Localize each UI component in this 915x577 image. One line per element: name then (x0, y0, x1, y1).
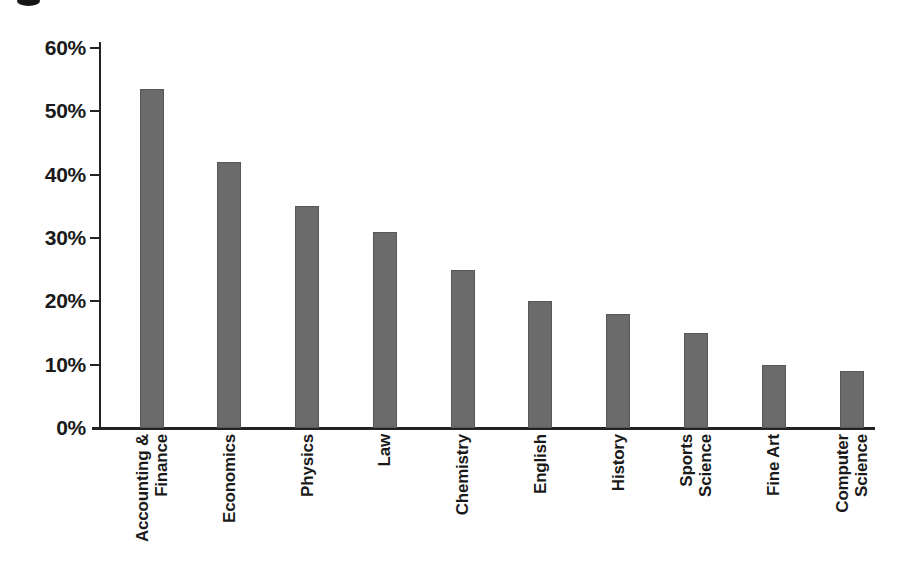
x-axis-label: English (531, 434, 550, 577)
bar-computer-science (840, 371, 864, 428)
y-tick-mark (90, 364, 100, 366)
y-tick-label: 10% (16, 353, 86, 377)
bar-chemistry (451, 270, 475, 428)
y-tick-mark (90, 174, 100, 176)
y-tick-label: 20% (16, 289, 86, 313)
bar-law (373, 232, 397, 428)
y-tick-label: 50% (16, 99, 86, 123)
y-tick-label: 30% (16, 226, 86, 250)
x-axis-label: Economics (220, 434, 239, 577)
x-axis-label: Sports Science (677, 434, 715, 577)
y-tick-mark (90, 300, 100, 302)
x-axis-label: History (609, 434, 628, 577)
x-axis-label: Chemistry (453, 434, 472, 577)
x-axis-label: Computer Science (833, 434, 871, 577)
scan-artifact (17, 0, 40, 6)
y-tick-mark (90, 237, 100, 239)
y-tick-mark (90, 47, 100, 49)
bar-physics (295, 206, 319, 428)
x-axis-label: Accounting & Finance (133, 434, 171, 577)
y-tick-label: 60% (16, 36, 86, 60)
y-tick-mark (90, 110, 100, 112)
y-tick-label: 40% (16, 163, 86, 187)
x-axis-label: Physics (298, 434, 317, 577)
bar-economics (217, 162, 241, 428)
x-axis-label: Fine Art (764, 434, 783, 577)
bar-fine-art (762, 365, 786, 428)
x-axis-line (92, 427, 875, 430)
bar-accounting-finance (140, 89, 164, 428)
x-axis-label: Law (375, 434, 394, 577)
bar-history (606, 314, 630, 428)
bar-sports-science (684, 333, 708, 428)
bar-chart-figure: 0%10%20%30%40%50%60% Accounting & Financ… (0, 0, 915, 577)
y-tick-label: 0% (16, 416, 86, 440)
y-axis-line (99, 42, 101, 430)
bar-english (528, 301, 552, 428)
